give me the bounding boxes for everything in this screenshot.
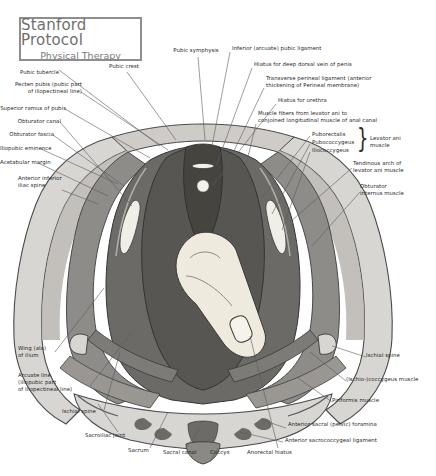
- label-tendinous-arch-levator-ani: Tendinous arch of levator ani muscle: [353, 160, 404, 174]
- leader-ischial-spine-right: [332, 346, 366, 357]
- label-hiatus-deep-dorsal-vein-penis: Hiatus for deep dorsal vein of penis: [254, 61, 352, 68]
- label-pubic-crest: Pubic crest: [96, 63, 152, 70]
- label-sacrum: Sacrum: [128, 447, 149, 454]
- label-anterior-sacrococcygeal-ligament: Anterior sacrococcygeal ligament: [285, 437, 377, 444]
- diagram-canvas: Stanford Protocol Physical Therapy Pubic…: [0, 0, 436, 476]
- label-anterior-sacral-pelvic-foramina: Anterior sacral (pelvic) foramina: [288, 421, 377, 428]
- label-pubic-symphysis: Pubic symphysis: [160, 47, 232, 54]
- title-plate-line2: Physical Therapy: [40, 51, 121, 61]
- label-anorectal-hiatus: Anorectal hiatus: [247, 449, 292, 456]
- label-ischial-spine-right: Ischial spine: [366, 352, 400, 359]
- label-ischial-spine-left: Ischial spine: [62, 408, 96, 415]
- label-sacral-canal: Sacral canal: [163, 449, 197, 456]
- label-ischio-coccygeus-muscle: (Ischio-)coccygeus muscle: [346, 376, 418, 383]
- label-piriformis-muscle: Piriformis muscle: [332, 397, 379, 404]
- ischial-spine-left-shape: [70, 334, 88, 354]
- label-pecten-pubis: Pecten pubis (pubic part of iliopectinea…: [0, 81, 82, 95]
- hiatus-deep-dorsal-vein-shape: [192, 163, 214, 168]
- label-anterior-inferior-iliac-spine: Anterior inferior iliac spine: [18, 175, 62, 189]
- ischial-spine-right-shape: [318, 334, 336, 354]
- label-obturator-canal: Obturator canal: [0, 118, 61, 125]
- label-puborectalis: Puborectalis: [312, 131, 346, 138]
- title-plate: Stanford Protocol Physical Therapy: [19, 17, 142, 61]
- title-plate-line1: Stanford Protocol: [21, 18, 140, 48]
- levator-ani-brace: }: [357, 125, 368, 152]
- label-obturator-fascia: Obturator fascia: [0, 131, 54, 138]
- label-acetabular-margin: Acetabular margin: [0, 159, 39, 166]
- pelvic-diaphragm-group: [60, 144, 346, 408]
- label-pubococcygeus: Pubococcygeus: [312, 139, 354, 146]
- pelvic-floor-illustration: [0, 0, 436, 476]
- label-superior-ramus-of-pubis: Superior ramus of pubis: [0, 105, 66, 112]
- label-wing-ala-of-ilium: Wing (ala) of ilium: [18, 345, 46, 359]
- label-obturator-internus-muscle: Obturator internus muscle: [360, 183, 404, 197]
- label-inferior-arcuate-pubic-ligament: Inferior (arcuate) pubic ligament: [232, 45, 322, 52]
- label-iliopubic-eminence: Iliopubic eminence: [0, 145, 42, 152]
- label-hiatus-for-urethra: Hiatus for urethra: [278, 97, 327, 104]
- hiatus-for-urethra-shape: [197, 180, 209, 192]
- label-coccyx: Coccyx: [210, 449, 230, 456]
- label-sacroiliac-joint: Sacroiliac joint: [85, 432, 125, 439]
- label-iliococcygeus: Iliococcygeus: [312, 147, 349, 154]
- label-pubic-tubercle: Pubic tubercle: [0, 69, 59, 76]
- label-arcuate-line: Arcuate line (iliopubic part of iliopect…: [18, 372, 72, 393]
- label-transverse-perineal-ligament: Transverse perineal ligament (anterior t…: [266, 75, 371, 89]
- label-levator-ani-muscle: Levator ani muscle: [370, 135, 401, 149]
